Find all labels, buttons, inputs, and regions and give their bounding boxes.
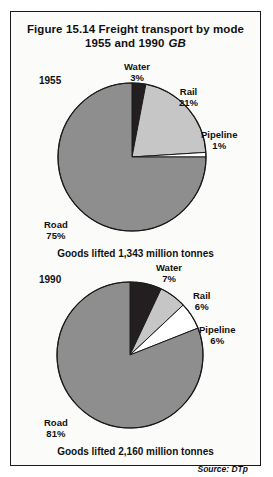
figure-title-line-1: Figure 15.14 Freight transport by mode bbox=[11, 22, 260, 36]
slice-label-water-1955-name: Water bbox=[124, 61, 150, 72]
slice-label-road-1990: Road 81% bbox=[44, 417, 68, 439]
slice-label-pipeline-1990-name: Pipeline bbox=[199, 324, 235, 335]
caption-1955: Goods lifted 1,343 million tonnes bbox=[11, 248, 260, 259]
slice-label-water-1955: Water 3% bbox=[124, 61, 150, 83]
slice-label-rail-1955: Rail 21% bbox=[179, 86, 198, 108]
figure-title-region: GB bbox=[164, 37, 185, 49]
slice-label-rail-1990: Rail 6% bbox=[193, 290, 210, 312]
slice-label-rail-1955-name: Rail bbox=[180, 86, 197, 97]
slice-label-road-1990-pct: 81% bbox=[44, 428, 68, 439]
figure-title: Figure 15.14 Freight transport by mode 1… bbox=[11, 22, 260, 50]
slice-label-road-1955-name: Road bbox=[44, 219, 68, 230]
caption-1990: Goods lifted 2,160 million tonnes bbox=[11, 446, 260, 457]
slice-label-water-1990-pct: 7% bbox=[156, 273, 182, 284]
slice-label-rail-1955-pct: 21% bbox=[179, 97, 198, 108]
figure-frame: Figure 15.14 Freight transport by mode 1… bbox=[10, 11, 261, 466]
slice-label-rail-1990-pct: 6% bbox=[193, 301, 210, 312]
slice-label-pipeline-1990-pct: 6% bbox=[199, 335, 235, 346]
pie-chart-1955 bbox=[32, 72, 232, 242]
slice-label-road-1955: Road 75% bbox=[44, 219, 68, 241]
slice-label-rail-1990-name: Rail bbox=[193, 290, 210, 301]
figure-title-years: 1955 and 1990 bbox=[85, 37, 164, 49]
slice-label-pipeline-1990: Pipeline 6% bbox=[199, 324, 235, 346]
source-line: Source: DTp bbox=[197, 464, 248, 474]
slice-label-road-1990-name: Road bbox=[44, 417, 68, 428]
figure-title-line-2: 1955 and 1990GB bbox=[11, 36, 260, 50]
slice-label-pipeline-1955: Pipeline 1% bbox=[201, 129, 237, 151]
slice-label-water-1955-pct: 3% bbox=[124, 72, 150, 83]
slice-label-pipeline-1955-name: Pipeline bbox=[201, 129, 237, 140]
slice-label-water-1990-name: Water bbox=[156, 262, 182, 273]
slice-label-water-1990: Water 7% bbox=[156, 262, 182, 284]
slice-label-road-1955-pct: 75% bbox=[44, 230, 68, 241]
slice-label-pipeline-1955-pct: 1% bbox=[201, 140, 237, 151]
